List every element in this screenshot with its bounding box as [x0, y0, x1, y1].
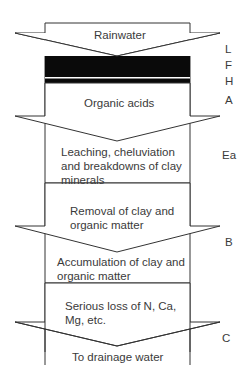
horizon-A: A	[225, 94, 233, 106]
horizon-B: B	[225, 236, 233, 248]
horizon-F: F	[225, 59, 232, 71]
step-removal: Removal of clay and organic matter	[70, 204, 174, 232]
step-serious-loss: Serious loss of N, Ca, Mg, etc.	[65, 299, 176, 327]
horizon-Ea: Ea	[222, 149, 236, 161]
step-drainage: To drainage water	[72, 350, 163, 364]
horizon-C: C	[222, 332, 230, 344]
step-leaching: Leaching, cheluviation and breakdowns of…	[61, 145, 182, 187]
step-rainwater: Rainwater	[94, 28, 146, 42]
horizon-H: H	[225, 75, 233, 87]
step-organic-acids: Organic acids	[84, 96, 154, 110]
horizon-L: L	[225, 43, 231, 55]
step-accumulation: Accumulation of clay and organic matter	[57, 255, 185, 283]
organic-layer-band	[45, 56, 190, 83]
